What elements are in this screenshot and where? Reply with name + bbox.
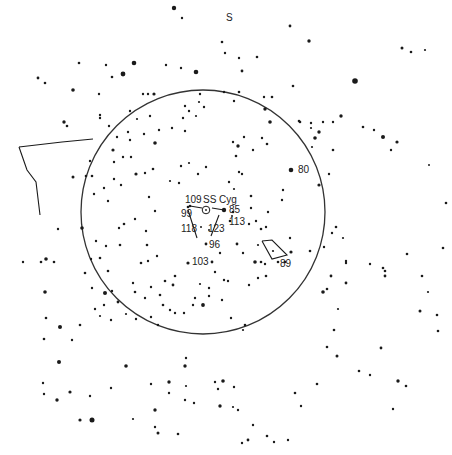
star <box>247 439 250 442</box>
star <box>244 324 247 327</box>
star <box>169 309 171 311</box>
star <box>221 41 224 44</box>
star <box>146 244 149 247</box>
star <box>113 178 115 180</box>
star <box>148 196 150 198</box>
star <box>78 418 81 421</box>
star <box>153 408 156 411</box>
star <box>45 317 48 320</box>
star <box>66 125 69 128</box>
asterism-lines <box>19 139 287 259</box>
star <box>165 64 167 66</box>
star <box>22 261 24 263</box>
star <box>180 67 182 69</box>
star <box>358 370 361 373</box>
star <box>37 77 40 80</box>
label-m109: 109 <box>185 195 202 205</box>
label-m99: 99 <box>181 209 192 219</box>
star <box>263 96 265 98</box>
star <box>401 47 404 50</box>
star <box>248 284 250 286</box>
star <box>68 390 71 393</box>
star <box>281 199 283 201</box>
star <box>118 227 120 229</box>
star <box>345 260 347 262</box>
star <box>243 136 245 138</box>
star <box>71 88 75 92</box>
asterism-line <box>19 147 40 215</box>
star <box>381 135 385 139</box>
star <box>335 226 338 229</box>
star <box>99 114 101 116</box>
star <box>111 148 114 151</box>
star <box>99 117 101 119</box>
star-field <box>0 0 452 455</box>
star <box>172 284 175 287</box>
star <box>424 49 426 51</box>
star <box>241 442 243 444</box>
star <box>419 310 422 313</box>
star <box>221 379 225 383</box>
star <box>333 329 336 332</box>
star <box>369 263 371 265</box>
star <box>169 180 171 182</box>
star <box>130 156 132 158</box>
star <box>78 62 81 65</box>
star <box>257 277 259 279</box>
star <box>79 324 82 327</box>
star <box>201 303 205 307</box>
orientation-label-south: S <box>226 13 233 23</box>
star <box>326 346 329 349</box>
star <box>150 286 152 288</box>
star <box>211 261 214 264</box>
asterism-line <box>262 240 287 259</box>
star <box>238 91 241 94</box>
star <box>107 270 110 273</box>
star <box>313 136 317 140</box>
star <box>150 316 152 318</box>
star <box>134 291 137 294</box>
star <box>99 257 102 260</box>
star <box>321 290 325 294</box>
star <box>339 114 342 117</box>
star <box>108 125 110 127</box>
star <box>134 172 137 175</box>
star <box>124 364 128 368</box>
star <box>330 275 333 278</box>
star <box>120 184 122 186</box>
star <box>316 383 319 386</box>
target-dot <box>205 209 207 211</box>
star <box>91 287 93 289</box>
star <box>317 130 320 133</box>
star <box>99 315 101 317</box>
star <box>132 282 134 284</box>
comparison-star-89 <box>277 261 280 264</box>
star <box>185 357 187 359</box>
star <box>194 297 196 299</box>
comparison-star-80 <box>289 168 294 173</box>
star <box>445 202 448 205</box>
star <box>194 70 199 75</box>
star <box>332 121 334 123</box>
star <box>203 106 205 108</box>
star <box>436 314 439 317</box>
comparison-star-103 <box>186 261 189 264</box>
star <box>44 257 48 261</box>
star <box>136 118 138 120</box>
star <box>421 275 424 278</box>
star <box>233 100 235 102</box>
star <box>264 263 266 265</box>
star <box>238 57 240 59</box>
star <box>300 405 302 407</box>
star <box>298 120 301 123</box>
star <box>242 252 244 254</box>
star <box>103 291 107 295</box>
star <box>268 120 272 124</box>
star <box>253 260 257 264</box>
star <box>111 290 113 292</box>
star <box>292 85 295 88</box>
star <box>233 188 235 190</box>
star <box>144 297 146 299</box>
star <box>157 432 160 435</box>
star <box>199 283 201 285</box>
